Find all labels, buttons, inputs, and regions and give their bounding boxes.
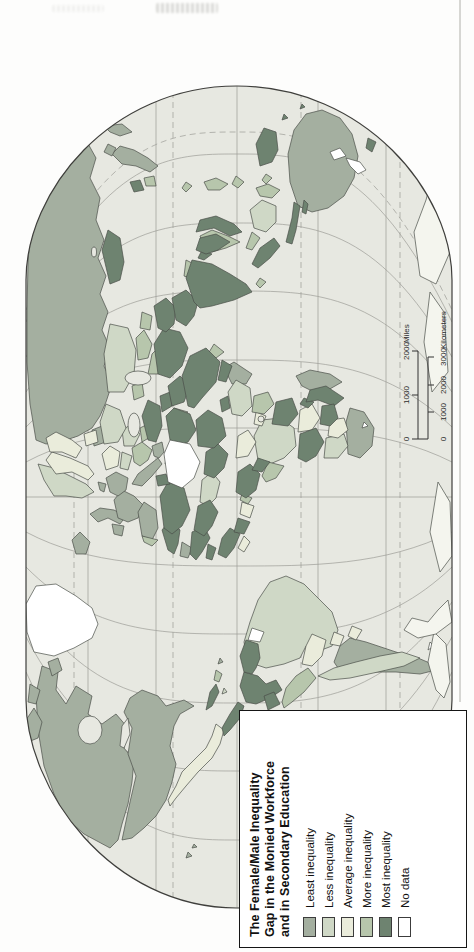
hudson-bay	[78, 716, 102, 744]
scale-bar-lines	[412, 351, 434, 439]
miles-tick-1000: 1000	[402, 386, 411, 404]
km-tick-0: 0	[439, 436, 448, 441]
legend-row: Least inequality	[300, 719, 319, 937]
legend-row: Less inequality	[319, 719, 338, 937]
legend-title: The Female/Male Inequality Gap in the Mo…	[248, 719, 293, 937]
legend-label: More inequality	[361, 830, 373, 908]
map-figure: The Female/Male Inequality Gap in the Mo…	[0, 0, 474, 952]
peninsula-kamchatka	[60, 104, 108, 122]
caspian-sea	[125, 371, 151, 385]
legend-row: No data	[395, 719, 414, 937]
legend-swatch-more	[360, 917, 373, 937]
scale-bar: 0 1000 2000 Miles 0 1000 2000 3000 Kilom…	[398, 277, 456, 447]
country-ireland	[112, 524, 124, 536]
legend-label: Less inequality	[323, 832, 335, 908]
scale-bar-graphic: 0 1000 2000 Miles 0 1000 2000 3000 Kilom…	[398, 277, 456, 447]
legend-items: Least inequality Less inequality Average…	[300, 719, 414, 937]
km-unit: Kilometers	[439, 311, 448, 349]
legend-title-line: Gap in the Monied Workforce	[263, 719, 278, 937]
legend-row: More inequality	[357, 719, 376, 937]
lake-victoria	[258, 416, 264, 422]
legend-swatch-average	[341, 917, 354, 937]
legend-label: Most inequality	[380, 831, 392, 908]
legend-label: Least inequality	[304, 828, 316, 908]
legend-row: Most inequality	[376, 719, 395, 937]
legend-swatch-nodata	[398, 917, 411, 937]
country-south-korea	[144, 176, 156, 186]
legend-swatch-least	[303, 917, 316, 937]
miles-tick-0: 0	[402, 436, 411, 441]
legend-title-line: The Female/Male Inequality	[248, 719, 263, 937]
legend-swatch-less	[322, 917, 335, 937]
legend-swatch-most	[379, 917, 392, 937]
black-sea	[128, 413, 140, 437]
scanned-map-page: The Female/Male Inequality Gap in the Mo…	[0, 0, 474, 952]
legend-label: Average inequality	[342, 814, 354, 908]
legend-title-line: and in Secondary Education	[278, 719, 293, 937]
km-tick-2000: 2000	[439, 376, 448, 394]
km-tick-1000: 1000	[439, 403, 448, 421]
miles-tick-2000: 2000	[402, 342, 411, 360]
legend: The Female/Male Inequality Gap in the Mo…	[239, 710, 467, 948]
lake-baikal	[92, 247, 97, 257]
km-tick-3000: 3000	[439, 348, 448, 366]
miles-unit: Miles	[402, 324, 411, 343]
legend-row: Average inequality	[338, 719, 357, 937]
legend-label: No data	[399, 868, 411, 908]
